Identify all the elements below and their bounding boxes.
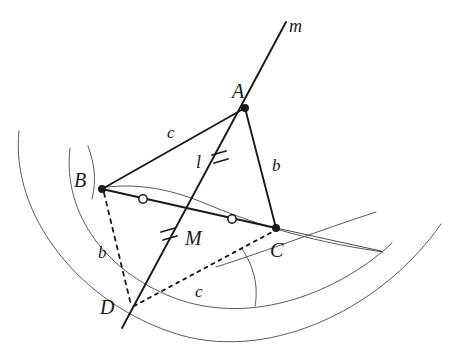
segment-DC-dotted bbox=[134, 231, 274, 306]
circle-mark-MC bbox=[228, 215, 236, 223]
line-label-l: l bbox=[196, 153, 201, 171]
arc-outer-A bbox=[18, 131, 441, 342]
segment-BD-dashed bbox=[104, 193, 131, 305]
point-label-C: C bbox=[270, 240, 283, 260]
point-label-D: D bbox=[100, 297, 114, 317]
geometry-figure: A B C D M m l c b b c bbox=[0, 0, 455, 355]
figure-canvas bbox=[0, 0, 455, 355]
point-dot-B bbox=[98, 185, 106, 193]
segment-label-c-upper: c bbox=[167, 124, 175, 141]
point-label-M: M bbox=[185, 228, 202, 248]
arc-inner-A bbox=[69, 148, 392, 309]
segment-label-b-lower: b bbox=[98, 244, 107, 261]
point-label-B: B bbox=[74, 170, 86, 190]
point-dot-C bbox=[272, 224, 280, 232]
arc-short-B bbox=[88, 146, 95, 199]
line-label-m: m bbox=[289, 17, 302, 35]
segment-AB bbox=[102, 108, 245, 189]
point-dot-A bbox=[241, 104, 249, 112]
segment-BC bbox=[102, 189, 276, 228]
circle-mark-BM bbox=[139, 195, 147, 203]
segment-BC-extension bbox=[276, 228, 381, 251]
point-label-A: A bbox=[232, 81, 244, 101]
segment-label-b-right: b bbox=[272, 157, 281, 174]
segment-label-c-lower: c bbox=[195, 283, 203, 300]
